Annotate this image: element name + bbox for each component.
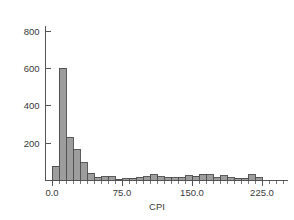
- histogram-bar: [220, 176, 227, 181]
- histogram-bar: [52, 166, 59, 180]
- x-tick-label: 0.0: [45, 187, 58, 198]
- y-tick-label: 800: [24, 26, 40, 37]
- histogram-bar: [227, 178, 234, 181]
- x-tick-label: 225.0: [250, 187, 274, 198]
- histogram-bar: [73, 150, 80, 181]
- histogram-bar: [185, 176, 192, 181]
- histogram-bar: [234, 178, 241, 180]
- histogram-bar: [171, 178, 178, 181]
- y-tick-label: 600: [24, 63, 40, 74]
- chart-canvas: 2004006008000.075.0150.0225.0CPI: [0, 0, 294, 220]
- x-tick-label: 150.0: [180, 187, 204, 198]
- histogram-bar: [115, 179, 122, 180]
- histogram-bar: [150, 175, 157, 181]
- histogram-bar: [157, 177, 164, 181]
- histogram-bar: [199, 174, 206, 180]
- histogram-bar: [101, 177, 108, 181]
- histogram-bar: [108, 177, 115, 181]
- histogram-bar: [129, 178, 136, 180]
- histogram-bar: [94, 177, 101, 180]
- histogram-bar: [255, 177, 262, 180]
- histogram-bar: [164, 178, 171, 181]
- histogram-bar: [178, 178, 185, 181]
- histogram-bar: [66, 138, 73, 181]
- histogram-bar: [213, 178, 220, 181]
- histogram-bar: [241, 178, 248, 180]
- histogram-bar: [122, 179, 129, 181]
- histogram-chart: 2004006008000.075.0150.0225.0CPI: [0, 0, 294, 220]
- histogram-bar: [136, 178, 143, 181]
- histogram-bar: [59, 68, 66, 180]
- histogram-bar: [80, 163, 87, 181]
- x-axis-title: CPI: [149, 201, 165, 212]
- histogram-bar: [143, 177, 150, 181]
- histogram-bar: [192, 176, 199, 180]
- x-tick-label: 75.0: [113, 187, 132, 198]
- histogram-bar: [206, 175, 213, 181]
- y-tick-label: 400: [24, 100, 40, 111]
- histogram-bar: [248, 175, 255, 181]
- y-tick-label: 200: [24, 138, 40, 149]
- histogram-bar: [87, 173, 94, 180]
